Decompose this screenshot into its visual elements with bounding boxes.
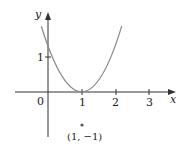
vertex-label: (1, −1) xyxy=(67,131,102,142)
parabola-curve xyxy=(41,26,121,92)
x-tick-label-3: 3 xyxy=(146,96,153,109)
y-axis-arrow-icon xyxy=(45,12,51,20)
x-tick-label-2: 2 xyxy=(112,96,119,109)
y-tick-label-1: 1 xyxy=(37,51,44,64)
vertex-point xyxy=(80,123,83,126)
parabola-chart: y x 0 1 1 2 3 (1, −1) xyxy=(0,0,187,151)
x-tick-label-1: 1 xyxy=(79,96,86,109)
origin-label: 0 xyxy=(37,95,44,108)
x-axis-label: x xyxy=(170,93,177,106)
y-axis-label: y xyxy=(34,8,42,21)
